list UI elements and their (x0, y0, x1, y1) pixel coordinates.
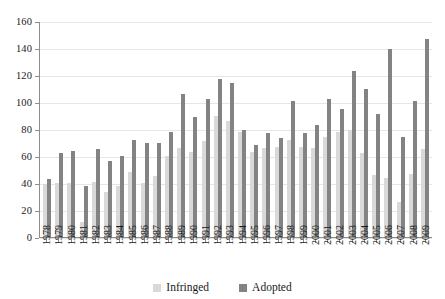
bar-group (382, 22, 394, 237)
bar-group (65, 22, 77, 237)
x-axis-tick-label: 1996 (261, 225, 272, 245)
bar-adopted-1991 (206, 99, 210, 237)
x-axis-tick-label: 2001 (322, 225, 333, 245)
x-axis-tick-label: 2002 (334, 225, 345, 245)
bar-adopted-1998 (291, 101, 295, 237)
bar-group (151, 22, 163, 237)
bar-group (358, 22, 370, 237)
x-axis-tick-label: 1991 (200, 225, 211, 245)
bar-series-container (40, 22, 432, 237)
y-axis-tick-label: 60 (21, 150, 32, 163)
bar-group (407, 22, 419, 237)
y-axis-tick-label: 140 (16, 42, 32, 55)
bar-adopted-1994 (242, 130, 246, 237)
bar-group (285, 22, 297, 237)
legend-swatch-icon (153, 284, 161, 292)
bar-adopted-1997 (279, 138, 283, 237)
bar-group (139, 22, 151, 237)
bar-adopted-1985 (132, 140, 136, 237)
y-axis-tick-label: 100 (16, 96, 32, 109)
bar-adopted-2001 (327, 99, 331, 237)
bar-adopted-2006 (388, 49, 392, 237)
bar-adopted-1987 (157, 143, 161, 238)
bar-adopted-1993 (230, 83, 234, 237)
legend-label: Infringed (166, 281, 209, 294)
legend-swatch-icon (239, 284, 247, 292)
x-axis-tick-label: 1993 (224, 225, 235, 245)
x-axis-tick-label: 2003 (347, 225, 358, 245)
bar-adopted-2009 (425, 39, 429, 237)
x-axis-tick-label: 1989 (176, 225, 187, 245)
x-axis-tick-label: 1983 (102, 225, 113, 245)
bar-group (102, 22, 114, 237)
bar-adopted-2003 (352, 71, 356, 237)
y-axis-tick-label: 120 (16, 69, 32, 82)
bar-adopted-1988 (169, 132, 173, 237)
y-axis-tick-label: 20 (21, 204, 32, 217)
y-axis-tick-label: 80 (21, 123, 32, 136)
bar-adopted-1989 (181, 94, 185, 237)
x-axis-tick-label: 1986 (139, 225, 150, 245)
x-axis-tick-label: 1981 (78, 225, 89, 245)
bar-group (199, 22, 211, 237)
bar-group (78, 22, 90, 237)
x-axis-tick-label: 2009 (420, 225, 431, 245)
bar-group (224, 22, 236, 237)
x-axis-tick-label: 1985 (127, 225, 138, 245)
bar-adopted-1992 (218, 79, 222, 237)
x-axis-tick-label: 1999 (298, 225, 309, 245)
bar-group (175, 22, 187, 237)
x-axis-tick-label: 2006 (383, 225, 394, 245)
y-axis-tick-label: 40 (21, 177, 32, 190)
bar-adopted-1990 (193, 117, 197, 237)
x-axis-tick-label: 2000 (310, 225, 321, 245)
bar-adopted-1982 (96, 149, 100, 237)
chart-legend: InfringedAdopted (0, 281, 445, 294)
bar-group (297, 22, 309, 237)
y-axis-tick-label: 160 (16, 15, 32, 28)
x-axis-tick-label: 1998 (285, 225, 296, 245)
bar-adopted-2002 (340, 109, 344, 237)
bar-adopted-2008 (413, 101, 417, 237)
x-axis-tick-label: 1994 (237, 225, 248, 245)
x-axis-tick-label: 2007 (395, 225, 406, 245)
x-axis-tick-label: 1988 (163, 225, 174, 245)
x-axis-tick-label: 1997 (273, 225, 284, 245)
legend-item-infringed[interactable]: Infringed (153, 281, 209, 294)
legend-item-adopted[interactable]: Adopted (239, 281, 292, 294)
x-axis-tick-label: 1979 (53, 225, 64, 245)
legend-label: Adopted (252, 281, 292, 294)
bar-group (260, 22, 272, 237)
bar-adopted-2004 (364, 89, 368, 238)
bar-group (370, 22, 382, 237)
bar-group (419, 22, 431, 237)
bar-adopted-2007 (401, 137, 405, 237)
bar-group (41, 22, 53, 237)
y-axis: 160140120100806040200 (0, 22, 39, 239)
bar-group (309, 22, 321, 237)
bar-group (321, 22, 333, 237)
bar-group (163, 22, 175, 237)
bar-group (236, 22, 248, 237)
bar-group (126, 22, 138, 237)
x-axis-tick-label: 1987 (151, 225, 162, 245)
x-axis-tick-label: 2008 (408, 225, 419, 245)
bar-adopted-1986 (145, 143, 149, 238)
plot-area (39, 22, 432, 238)
y-axis-tick-label: 0 (27, 231, 32, 244)
bar-group (394, 22, 406, 237)
bar-group (273, 22, 285, 237)
bar-group (187, 22, 199, 237)
x-axis-tick-label: 1990 (188, 225, 199, 245)
bar-group (334, 22, 346, 237)
x-axis-tick-label: 1995 (249, 225, 260, 245)
bar-group (114, 22, 126, 237)
bar-group (212, 22, 224, 237)
bar-adopted-1996 (266, 133, 270, 237)
x-axis-tick-label: 2004 (359, 225, 370, 245)
x-axis-tick-label: 2005 (371, 225, 382, 245)
bar-adopted-2005 (376, 114, 380, 237)
bar-group (346, 22, 358, 237)
x-axis-tick-label: 1982 (90, 225, 101, 245)
x-axis-tick-label: 1978 (41, 225, 52, 245)
